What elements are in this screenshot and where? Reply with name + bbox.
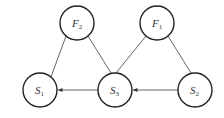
diagram-canvas: F2 F1 S1 S3 S2 [0,0,224,118]
node-F2: F2 [60,6,94,40]
node-S3: S3 [98,73,132,107]
node-S1: S1 [23,73,57,107]
edge-F2-S1 [51,36,66,77]
edge-F1-S2 [168,36,191,73]
edge-F1-S3 [116,36,146,73]
node-F1: F1 [140,6,174,40]
edge-F2-S3 [88,36,111,73]
node-S2: S2 [178,73,212,107]
